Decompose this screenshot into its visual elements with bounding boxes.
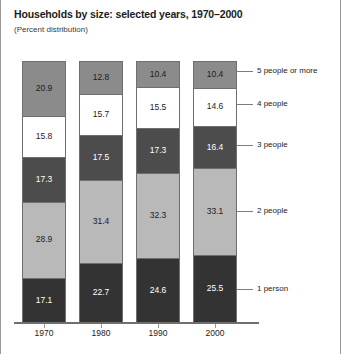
chart-title: Households by size: selected years, 1970… xyxy=(14,8,242,20)
x-axis-tick-mark xyxy=(101,324,102,328)
bar-value-label: 17.3 xyxy=(150,146,167,155)
legend-label-4-people: 4 people xyxy=(257,99,288,108)
bar-value-label: 31.4 xyxy=(93,217,110,226)
bar-segment: 17.3 xyxy=(136,128,180,174)
bar-stack-1990: 10.415.517.332.324.6 xyxy=(136,61,180,323)
legend-label-2-people: 2 people xyxy=(257,206,288,215)
bar-segment: 28.9 xyxy=(22,202,66,279)
bar-segment: 31.4 xyxy=(79,180,123,264)
bar-segment: 24.6 xyxy=(136,258,180,323)
bar-stack-1970: 20.915.817.328.917.1 xyxy=(22,61,66,323)
bar-value-label: 10.4 xyxy=(150,70,167,79)
legend-leader-line xyxy=(237,71,253,72)
bar-segment: 17.1 xyxy=(22,278,66,323)
bar-segment: 17.3 xyxy=(22,157,66,203)
bar-segment: 25.5 xyxy=(193,255,237,323)
legend-leader-line xyxy=(237,289,253,290)
bar-segment: 20.9 xyxy=(22,61,66,117)
bar-segment: 15.7 xyxy=(79,94,123,136)
x-axis-tick-1970: 1970 xyxy=(22,328,66,338)
bar-segment: 32.3 xyxy=(136,173,180,259)
x-axis-tick-mark xyxy=(44,324,45,328)
bar-segment: 10.4 xyxy=(136,61,180,89)
bar-value-label: 28.9 xyxy=(36,235,53,244)
legend-label-3-people: 3 people xyxy=(257,140,288,149)
chart-subtitle: (Percent distribution) xyxy=(14,25,88,34)
bar-value-label: 20.9 xyxy=(36,84,53,93)
bar-segment: 15.8 xyxy=(22,116,66,158)
bar-value-label: 17.5 xyxy=(93,153,110,162)
legend-label-1-person: 1 person xyxy=(257,284,288,293)
legend-leader-line xyxy=(237,211,253,212)
bar-value-label: 25.5 xyxy=(207,284,224,293)
bar-value-label: 14.6 xyxy=(207,102,224,111)
x-axis-tick-mark xyxy=(158,324,159,328)
bar-value-label: 15.8 xyxy=(36,132,53,141)
bar-stack-2000: 10.414.616.433.125.5 xyxy=(193,61,237,323)
bar-segment: 14.6 xyxy=(193,88,237,127)
bar-segment: 12.8 xyxy=(79,61,123,95)
bar-value-label: 12.8 xyxy=(93,73,110,82)
legend-leader-line xyxy=(237,145,253,146)
bar-stack-1980: 12.815.717.531.422.7 xyxy=(79,61,123,323)
bar-segment: 17.5 xyxy=(79,135,123,182)
bar-value-label: 16.4 xyxy=(207,143,224,152)
plot-area: 20.915.817.328.917.112.815.717.531.422.7… xyxy=(14,57,259,323)
bar-value-label: 17.3 xyxy=(36,175,53,184)
bar-segment: 16.4 xyxy=(193,126,237,170)
bar-segment: 33.1 xyxy=(193,168,237,256)
legend-label-5-people-or-more: 5 people or more xyxy=(257,66,317,75)
bar-value-label: 22.7 xyxy=(93,288,110,297)
bar-value-label: 33.1 xyxy=(207,207,224,216)
x-axis-tick-2000: 2000 xyxy=(193,328,237,338)
bar-value-label: 32.3 xyxy=(150,211,167,220)
bar-value-label: 15.5 xyxy=(150,103,167,112)
bar-value-label: 24.6 xyxy=(150,286,167,295)
x-axis-tick-mark xyxy=(215,324,216,328)
x-axis-tick-1990: 1990 xyxy=(136,328,180,338)
bar-segment: 10.4 xyxy=(193,61,237,89)
bar-value-label: 15.7 xyxy=(93,110,110,119)
bar-value-label: 10.4 xyxy=(207,70,224,79)
bar-segment: 22.7 xyxy=(79,263,123,323)
legend-leader-line xyxy=(237,104,253,105)
chart-figure: Households by size: selected years, 1970… xyxy=(0,0,341,354)
bar-value-label: 17.1 xyxy=(36,296,53,305)
x-axis-tick-1980: 1980 xyxy=(79,328,123,338)
bar-segment: 15.5 xyxy=(136,87,180,128)
